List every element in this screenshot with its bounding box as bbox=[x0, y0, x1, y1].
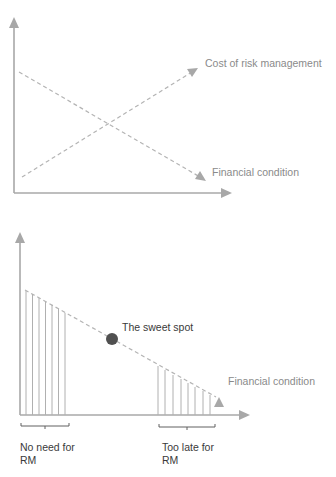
no-need-bracket bbox=[21, 423, 69, 429]
no-need-hatching bbox=[26, 291, 65, 415]
cost-of-risk-line bbox=[22, 72, 192, 177]
no-need-line1: No need for bbox=[20, 441, 75, 454]
too-late-bracket bbox=[159, 424, 215, 430]
no-need-line2: RM bbox=[20, 454, 75, 467]
no-need-label: No need for RM bbox=[20, 441, 75, 467]
diagram-canvas bbox=[0, 0, 336, 477]
financial-condition-line-bottom bbox=[25, 290, 216, 397]
sweet-spot-dot bbox=[106, 333, 118, 345]
top-chart bbox=[9, 17, 232, 198]
financial-condition-label-bottom: Financial condition bbox=[228, 375, 315, 388]
top-y-axis-arrow-icon bbox=[9, 17, 19, 28]
financial-condition-label-top: Financial condition bbox=[212, 166, 299, 179]
bottom-x-axis-arrow-icon bbox=[239, 410, 250, 420]
too-late-line2: RM bbox=[162, 454, 214, 467]
cost-of-risk-label: Cost of risk management bbox=[205, 57, 322, 70]
too-late-line1: Too late for bbox=[162, 441, 214, 454]
sweet-spot-label: The sweet spot bbox=[122, 321, 193, 334]
bottom-y-axis-arrow-icon bbox=[15, 232, 25, 243]
financial-condition-line bbox=[19, 72, 200, 177]
too-late-hatching bbox=[158, 366, 210, 415]
financial-condition-arrow-icon bbox=[195, 171, 206, 181]
financial-condition-arrow-icon-bottom bbox=[214, 397, 224, 407]
cost-of-risk-arrow-icon bbox=[187, 68, 198, 77]
too-late-label: Too late for RM bbox=[162, 441, 214, 467]
top-x-axis-arrow-icon bbox=[221, 188, 232, 198]
